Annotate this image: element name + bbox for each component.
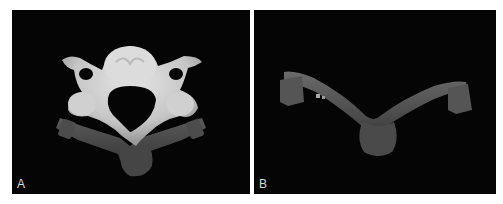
template-only-render <box>254 10 496 194</box>
panel-label-b: B <box>259 178 267 190</box>
vertebra-with-template-render <box>12 10 250 194</box>
figure-panel-b: B <box>254 10 496 194</box>
panel-label-a: A <box>17 178 25 190</box>
figure-panel-a: A <box>12 10 250 194</box>
